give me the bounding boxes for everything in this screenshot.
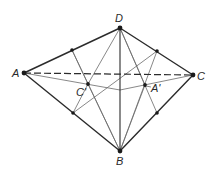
label-C-prime: C' [76,86,87,98]
labels: A B C D A' C' [11,12,205,167]
tetrahedron-diagram: A B C D A' C' [0,0,210,172]
points [22,26,196,154]
label-A: A [11,67,19,79]
point-D [118,26,123,31]
construction-lines [24,28,193,151]
label-A-prime: A' [150,82,161,94]
label-D: D [115,12,123,24]
label-B: B [116,155,123,167]
point-B [118,149,123,154]
outline-edges [24,28,193,151]
line-midAD-Cprime [72,50,88,84]
edge-AC-hidden [24,73,193,75]
midpoint-CB [155,111,159,115]
point-C-prime [86,82,90,86]
label-C: C [197,70,205,82]
midpoint-AB [71,111,75,115]
point-C [191,73,196,78]
line-A-V [24,73,120,90]
midpoint-DC [155,49,159,53]
line-midAB-midDC [73,51,157,113]
line-D-Cprime-B [88,28,120,84]
midpoint-AD [70,48,74,52]
point-A [22,71,27,76]
